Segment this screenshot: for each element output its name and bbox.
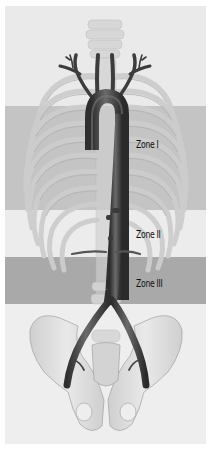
anatomy-illustration (5, 6, 206, 444)
zone-2-label: Zone II (136, 229, 161, 240)
zone-1-label: Zone I (136, 139, 159, 150)
zone-3-label: Zone III (136, 278, 163, 289)
ribs-left (26, 76, 97, 271)
diagram-frame: Zone I Zone II Zone III (5, 6, 206, 444)
